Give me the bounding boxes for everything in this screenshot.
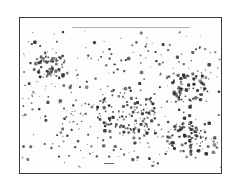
dot-field-image <box>0 0 240 190</box>
